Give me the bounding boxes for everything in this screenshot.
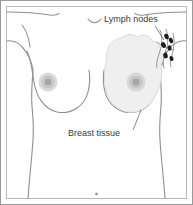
- navel-mark: [95, 193, 98, 196]
- right-nipple: [133, 79, 139, 85]
- left-nipple: [45, 79, 51, 85]
- figure-inner-border: [7, 7, 187, 199]
- breast-tissue-label: Breast tissue: [68, 128, 120, 138]
- left-areola: [39, 73, 58, 92]
- lymph-nodes-label: Lymph nodes: [104, 14, 158, 24]
- right-areola: [127, 73, 146, 92]
- torso-illustration-canvas: Lymph nodes Breast tissue: [0, 0, 193, 205]
- medical-illustration-figure: Lymph nodes Breast tissue: [0, 0, 193, 205]
